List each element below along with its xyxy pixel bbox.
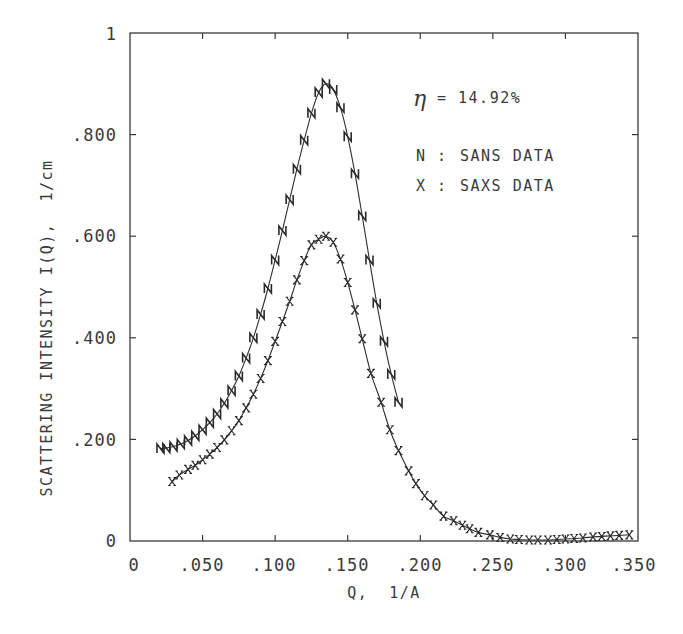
sans-data-point — [337, 103, 344, 112]
saxs-data-point — [458, 521, 466, 529]
sans-data-point — [199, 425, 206, 434]
saxs-data-point — [242, 404, 250, 412]
saxs-data-point — [412, 480, 420, 488]
sans-data-point — [330, 85, 337, 94]
saxs-data-point — [228, 427, 236, 435]
sans-fit-line — [161, 84, 399, 449]
saxs-data-point — [271, 337, 279, 345]
x-tick-label: .100 — [252, 555, 297, 575]
saxs-data-point — [191, 461, 199, 469]
x-tick-label: .050 — [180, 555, 225, 575]
saxs-data-point — [315, 235, 323, 243]
saxs-data-series — [168, 232, 633, 544]
y-tick-label: 1 — [106, 24, 117, 44]
sans-data-series — [157, 79, 402, 453]
y-axis-title: SCATTERING INTENSITY I(Q), 1/cm — [38, 160, 56, 497]
saxs-data-point — [293, 276, 301, 284]
x-tick-label: .300 — [543, 555, 588, 575]
x-tick-label: .250 — [470, 555, 515, 575]
legend-sans-separator: : — [437, 147, 448, 165]
axis-ticks — [130, 33, 638, 541]
sans-data-point — [272, 256, 279, 265]
saxs-data-point — [466, 525, 474, 533]
saxs-data-point — [300, 257, 308, 265]
sans-data-point — [301, 136, 308, 145]
sans-data-point — [293, 165, 300, 174]
x-tick-label: .150 — [325, 555, 370, 575]
eta-value: = 14.92% — [437, 89, 521, 107]
saxs-data-point — [184, 465, 192, 473]
x-axis-tick-labels: 0 .050 .100 .150 .200 .250 .300 .350 — [128, 555, 656, 575]
eta-annotation: η = 14.92% — [413, 86, 521, 111]
sans-data-point — [170, 442, 177, 451]
scattering-intensity-chart: 0 .200 .400 .600 .800 1 0 .050 .100 .150… — [0, 0, 683, 634]
sans-data-point — [308, 109, 315, 118]
legend-saxs-marker: X — [416, 177, 427, 195]
y-tick-label: .200 — [72, 430, 117, 450]
plot-frame — [130, 33, 638, 541]
saxs-data-point — [278, 318, 286, 326]
saxs-data-point — [358, 335, 366, 343]
saxs-data-point — [450, 517, 458, 525]
x-axis-title: Q, 1/A — [347, 584, 421, 602]
legend-saxs-label: SAXS DATA — [460, 177, 555, 195]
sans-data-point — [257, 310, 264, 319]
sans-data-point — [279, 226, 286, 235]
y-axis-tick-labels: 0 .200 .400 .600 .800 1 — [72, 24, 117, 551]
saxs-data-point — [405, 467, 413, 475]
y-tick-label: .800 — [72, 125, 117, 145]
saxs-data-point — [235, 417, 243, 425]
legend-sans-marker: N — [416, 147, 427, 165]
saxs-data-point — [336, 255, 344, 263]
saxs-data-point — [351, 306, 359, 314]
sans-data-point — [381, 337, 388, 346]
sans-data-point — [395, 398, 402, 407]
y-tick-label: .400 — [72, 328, 117, 348]
sans-data-point — [250, 333, 257, 342]
saxs-data-point — [395, 447, 403, 455]
x-tick-label: .350 — [612, 555, 657, 575]
sans-data-point — [243, 354, 250, 363]
sans-data-point — [344, 132, 351, 141]
saxs-data-point — [264, 357, 272, 365]
saxs-data-point — [257, 374, 265, 382]
y-tick-label: .600 — [72, 226, 117, 246]
saxs-data-point — [249, 390, 257, 398]
saxs-data-point — [367, 369, 375, 377]
eta-symbol: η — [413, 86, 428, 111]
saxs-data-point — [386, 426, 394, 434]
sans-data-point — [235, 371, 242, 380]
legend-saxs-separator: : — [437, 177, 448, 195]
legend-sans-label: SANS DATA — [460, 147, 555, 165]
saxs-data-point — [344, 278, 352, 286]
saxs-data-point — [474, 528, 482, 536]
sans-data-point — [185, 436, 192, 445]
sans-data-point — [286, 195, 293, 204]
sans-data-point — [264, 284, 271, 293]
saxs-data-point — [286, 297, 294, 305]
sans-data-point — [177, 439, 184, 448]
saxs-data-point — [377, 398, 385, 406]
sans-data-point — [388, 370, 395, 379]
sans-data-point — [228, 386, 235, 395]
legend: N : SANS DATA X : SAXS DATA — [416, 147, 555, 195]
y-tick-label: 0 — [106, 531, 117, 551]
sans-data-point — [192, 431, 199, 440]
saxs-fit-line — [172, 236, 629, 540]
sans-data-point — [315, 88, 322, 97]
x-tick-label: .200 — [398, 555, 443, 575]
x-tick-label: 0 — [128, 555, 139, 575]
